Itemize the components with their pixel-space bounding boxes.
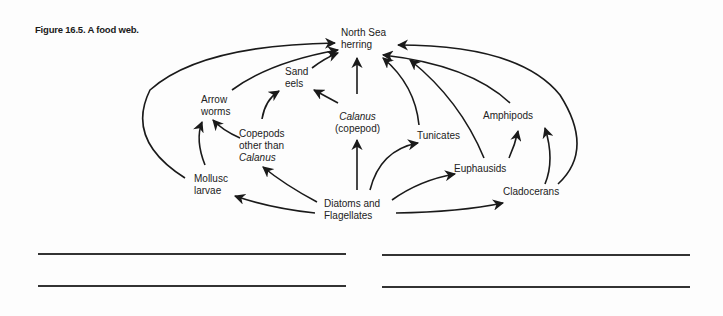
edge-diatoms-tunicates xyxy=(370,143,418,190)
node-north-sea-herring: North Sea herring xyxy=(341,27,386,51)
answer-line-3[interactable] xyxy=(38,285,346,287)
edge-diatoms-mollusc xyxy=(235,196,315,213)
node-euphausids: Euphausids xyxy=(454,163,506,175)
edge-diatoms-euphausids xyxy=(392,174,455,200)
answer-line-2[interactable] xyxy=(382,254,690,256)
answer-line-1[interactable] xyxy=(38,253,346,255)
edge-calanus-sandeels xyxy=(314,90,338,103)
node-calanus: Calanus (copepod) xyxy=(335,111,380,135)
node-tunicates: Tunicates xyxy=(417,130,460,142)
node-diatoms-flagellates: Diatoms and Flagellates xyxy=(324,198,380,222)
node-copepods-other: Copepods other than Calanus xyxy=(239,128,285,164)
edge-copepods-arrowworms xyxy=(213,120,240,138)
edge-mollusc-arrowworms xyxy=(199,122,205,165)
node-amphipods: Amphipods xyxy=(483,110,533,122)
node-mollusc-larvae: Mollusc larvae xyxy=(194,173,228,197)
edge-copepods-sandeels xyxy=(262,91,279,119)
node-arrow-worms: Arrow worms xyxy=(201,94,230,118)
edge-tunicates-herring xyxy=(383,58,419,125)
edge-euphausids-herring xyxy=(410,60,484,158)
edge-diatoms-copepods xyxy=(263,167,317,202)
edge-cladocerans-amphipods xyxy=(545,128,550,184)
edge-euphausids-amphipods xyxy=(509,131,518,158)
answer-line-4[interactable] xyxy=(382,286,690,288)
node-sand-eels: Sand eels xyxy=(285,66,308,90)
edge-diatoms-cladocerans xyxy=(396,203,503,213)
node-cladocerans: Cladocerans xyxy=(503,186,559,198)
